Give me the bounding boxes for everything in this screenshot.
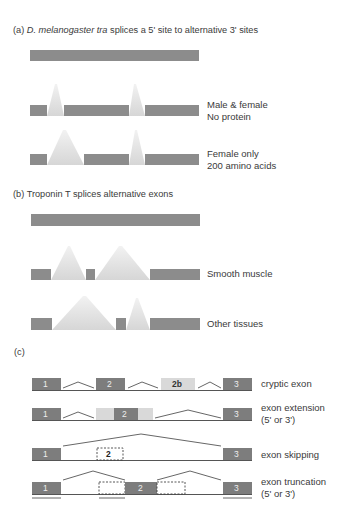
- panel-c-label: (c): [14, 347, 25, 358]
- troponin-smooth-muscle-transcript: [31, 246, 200, 280]
- row-sublabel-5-or-3: (5' or 3'): [261, 488, 295, 500]
- panel-b-title: (b) Troponin T splices alternative exons: [13, 189, 173, 200]
- exon-label-3: 3: [234, 379, 239, 390]
- row-label-male-female: Male & female: [207, 99, 268, 111]
- tra-male-female-transcript: [30, 84, 199, 116]
- exon-label-3: 3: [234, 449, 239, 460]
- row-label-exon-skipping: exon skipping: [261, 449, 319, 461]
- troponin-other-tissues-transcript: [31, 296, 200, 330]
- exon-label-2b: 2b: [172, 379, 182, 390]
- exon-2-extension-5: [96, 408, 114, 420]
- panel-b-label: (b): [13, 189, 24, 199]
- row-label-exon-extension: exon extension: [261, 402, 325, 414]
- exon-label-3: 3: [234, 409, 239, 420]
- exon-label-2: 2: [138, 483, 143, 494]
- row-label-cryptic-exon: cryptic exon: [261, 378, 312, 390]
- exon-label-2: 2: [106, 449, 111, 460]
- exon-skipping-diagram: [32, 434, 252, 461]
- tra-female-only-transcript: [30, 130, 199, 165]
- truncated-region-3: [157, 482, 185, 494]
- row-label-exon-truncation: exon truncation: [261, 476, 326, 488]
- exon-label-1: 1: [43, 379, 48, 390]
- row-sublabel-200-amino-acids: 200 amino acids: [207, 160, 276, 172]
- exon-label-1: 1: [43, 449, 48, 460]
- panel-b-title-text: Troponin T splices alternative exons: [27, 189, 173, 199]
- row-label-smooth-muscle: Smooth muscle: [207, 268, 272, 280]
- exon-label-3: 3: [234, 483, 239, 494]
- exon-label-2: 2: [122, 409, 127, 420]
- exon-label-1: 1: [43, 409, 48, 420]
- splicing-diagram: [0, 0, 341, 509]
- exon-extension-diagram: [32, 408, 252, 421]
- row-sublabel-5-or-3: (5' or 3'): [261, 414, 295, 426]
- cryptic-exon-diagram: [32, 378, 252, 391]
- row-sublabel-no-protein: No protein: [207, 111, 251, 123]
- exon-label-1: 1: [43, 483, 48, 494]
- pre-mrna-bar-a: [30, 50, 199, 61]
- row-label-female-only: Female only: [207, 148, 259, 160]
- truncated-region-5: [99, 482, 125, 494]
- pre-mrna-bar-b: [31, 214, 200, 226]
- row-label-other-tissues: Other tissues: [207, 318, 263, 330]
- exon-2-extension-3: [138, 408, 153, 420]
- exon-label-2: 2: [107, 379, 112, 390]
